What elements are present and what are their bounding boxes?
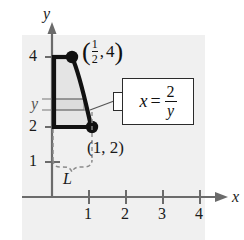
equation-lhs: x — [139, 91, 147, 112]
half-denominator: 2 — [92, 53, 98, 65]
y-tick-label-4: 4 — [29, 47, 37, 65]
lower-point-label: (1, 2) — [87, 138, 124, 158]
callout-pointer-line — [90, 101, 114, 110]
label-comma: , — [100, 42, 104, 62]
strip-height-label: y — [31, 95, 38, 113]
representative-strip — [42, 99, 88, 110]
equation-numerator: 2 — [165, 84, 177, 100]
length-label: L — [63, 170, 72, 188]
half-numerator: 1 — [92, 38, 98, 50]
equation-denominator: y — [165, 103, 176, 119]
x-tick-label-2: 2 — [121, 205, 129, 223]
upper-point-y-value: 4 — [106, 42, 115, 62]
equation-fraction: 2 y — [165, 84, 177, 120]
open-paren: ( — [82, 39, 91, 65]
x-tick-label-1: 1 — [84, 205, 92, 223]
equation-equals-sign: = — [150, 91, 160, 112]
region-fill — [53, 57, 92, 127]
x-axis-label: x — [232, 188, 239, 206]
y-axis-label: y — [43, 5, 50, 23]
y-tick-label-2: 2 — [29, 117, 37, 135]
x-tick-label-3: 3 — [158, 205, 166, 223]
half-fraction: 1 2 — [92, 38, 98, 65]
x-tick-label-4: 4 — [195, 205, 203, 223]
close-paren: ) — [114, 39, 123, 65]
curve-equation: x = 2 y — [122, 78, 194, 125]
upper-point-dot — [66, 51, 78, 63]
figure-container: . — [0, 0, 244, 240]
upper-point-label: ( 1 2 , 4 ) — [82, 38, 123, 65]
y-tick-label-1: 1 — [29, 152, 37, 170]
